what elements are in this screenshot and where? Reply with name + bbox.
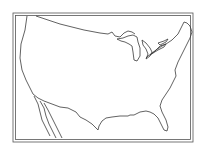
map-frame: [13, 13, 193, 142]
us-coastline: [20, 16, 192, 138]
us-outline-map: [0, 0, 206, 155]
